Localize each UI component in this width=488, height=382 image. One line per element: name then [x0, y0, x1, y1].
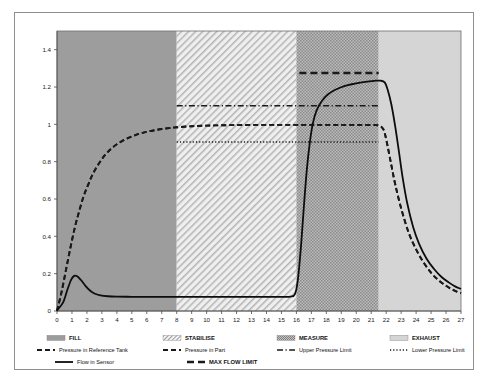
x-tick-label: 27 — [458, 316, 465, 323]
x-tick-label: 14 — [263, 316, 270, 323]
x-tick-label: 23 — [398, 316, 405, 323]
x-tick-label: 19 — [338, 316, 345, 323]
x-tick-label: 26 — [443, 316, 450, 323]
legend-label-max-flow-limit: MAX FLOW LIMIT — [209, 359, 258, 365]
y-tick-label: 0.8 — [42, 158, 51, 165]
x-tick-label: 7 — [160, 316, 164, 323]
legend-label-flow-in-sensor: Flow in Sensor — [77, 359, 114, 365]
x-tick-label: 4 — [115, 316, 119, 323]
x-tick-label: 25 — [428, 316, 435, 323]
x-tick-label: 18 — [323, 316, 330, 323]
y-tick-label: 0.2 — [42, 270, 51, 277]
phase-band-fill — [57, 31, 177, 311]
x-tick-label: 13 — [248, 316, 255, 323]
x-tick-label: 5 — [130, 316, 134, 323]
legend-label-lower-pressure-limit: Lower Pressure Limit — [412, 347, 465, 353]
x-tick-label: 20 — [353, 316, 360, 323]
phase-bands-group — [57, 31, 461, 311]
legend-label-measure: MEASURE — [299, 335, 328, 341]
x-tick-label: 11 — [218, 316, 225, 323]
x-tick-label: 10 — [203, 316, 210, 323]
y-tick-label: 1.4 — [42, 46, 51, 53]
pressure-decay-chart: 00.20.40.60.811.21.4 0123456789101112131… — [15, 13, 473, 369]
x-axis-tick-labels: 0123456789101112131415161718192021222324… — [55, 311, 465, 323]
x-tick-label: 15 — [278, 316, 285, 323]
x-tick-label: 24 — [413, 316, 420, 323]
y-axis-tick-labels: 00.20.40.60.811.21.4 — [42, 46, 57, 314]
phase-band-stabilise — [177, 31, 297, 311]
x-tick-label: 3 — [100, 316, 104, 323]
legend-swatch-stabilise — [163, 335, 181, 340]
x-tick-label: 6 — [145, 316, 149, 323]
legend-label-pressure-in-part: Pressure in Part — [185, 347, 226, 353]
x-tick-label: 9 — [190, 316, 194, 323]
x-tick-label: 16 — [293, 316, 300, 323]
x-tick-label: 1 — [70, 316, 74, 323]
x-tick-label: 12 — [233, 316, 240, 323]
x-tick-label: 8 — [175, 316, 179, 323]
legend-swatch-exhaust — [390, 335, 408, 340]
legend-label-stabilise: STABILISE — [185, 335, 215, 341]
y-tick-label: 1 — [48, 121, 52, 128]
legend-swatch-measure — [277, 335, 295, 340]
x-tick-label: 17 — [308, 316, 315, 323]
legend-label-upper-pressure-limit: Upper Pressure Limit — [299, 347, 352, 353]
x-tick-label: 22 — [383, 316, 390, 323]
chart-legend: FILLSTABILISEMEASUREEXHAUSTPressure in R… — [37, 335, 465, 365]
y-tick-label: 1.2 — [42, 83, 51, 90]
chart-figure: 00.20.40.60.811.21.4 0123456789101112131… — [14, 12, 474, 370]
y-tick-label: 0.6 — [42, 195, 51, 202]
x-tick-label: 2 — [85, 316, 89, 323]
legend-label-exhaust: EXHAUST — [412, 335, 440, 341]
y-tick-label: 0.4 — [42, 233, 51, 240]
legend-label-fill: FILL — [69, 335, 82, 341]
legend-label-pressure-in-reference-tank: Pressure in Reference Tank — [59, 347, 128, 353]
x-tick-label: 0 — [55, 316, 59, 323]
y-tick-label: 0 — [48, 307, 52, 314]
legend-swatch-fill — [47, 335, 65, 340]
x-tick-label: 21 — [368, 316, 375, 323]
phase-band-exhaust — [379, 31, 461, 311]
